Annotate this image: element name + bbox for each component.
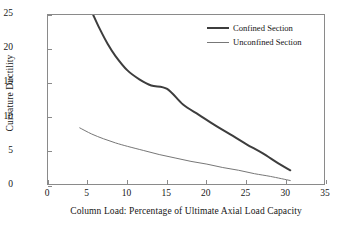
- series-line-unconfined-section: [80, 128, 290, 181]
- chart-figure: Curvature Ductility 0510152025 051015202…: [0, 0, 342, 232]
- legend-line-swatch-unconfined-icon: [207, 42, 229, 43]
- x-axis-title: Column Load: Percentage of Ultimate Axia…: [47, 206, 325, 216]
- y-axis-tick-label-20: 20: [0, 43, 13, 53]
- x-axis-tick-label-15: 15: [154, 189, 178, 199]
- x-axis-tick-label-0: 0: [35, 189, 59, 199]
- legend-label-confined-section: Confined Section: [233, 23, 293, 33]
- y-axis-tick-label-15: 15: [0, 77, 13, 87]
- legend-label-unconfined-section: Unconfined Section: [233, 37, 302, 47]
- x-axis-tick-label-5: 5: [75, 189, 99, 199]
- y-axis-tick-label-0: 0: [0, 180, 13, 190]
- legend-item-unconfined-section: Unconfined Section: [207, 36, 325, 48]
- chart-legend: Confined Section Unconfined Section: [207, 22, 325, 50]
- x-axis-tick-label-10: 10: [114, 189, 138, 199]
- y-axis-title: Curvature Ductility: [0, 0, 18, 185]
- y-axis-tick-label-5: 5: [0, 146, 13, 156]
- x-axis-tick-label-35: 35: [313, 189, 337, 199]
- y-axis-tick-label-10: 10: [0, 112, 13, 122]
- legend-line-swatch-confined-icon: [207, 27, 229, 29]
- x-axis-tick-label-25: 25: [234, 189, 258, 199]
- x-axis-tick-label-30: 30: [273, 189, 297, 199]
- y-axis-tick-label-25: 25: [0, 9, 13, 19]
- x-axis-tick-label-20: 20: [194, 189, 218, 199]
- legend-item-confined-section: Confined Section: [207, 22, 325, 34]
